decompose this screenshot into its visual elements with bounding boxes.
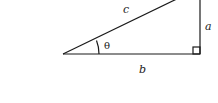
label-a: a — [205, 20, 212, 33]
right-triangle-diagram: c a b θ — [0, 0, 218, 103]
right-angle-marker — [193, 47, 200, 54]
label-theta: θ — [104, 40, 110, 51]
label-c: c — [123, 3, 129, 16]
triangle — [63, 0, 200, 54]
label-b: b — [139, 63, 146, 76]
angle-arc — [97, 41, 100, 55]
